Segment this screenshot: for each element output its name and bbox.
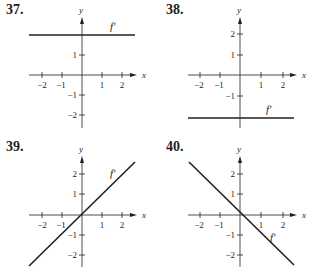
y-tick-label: −2: [225, 250, 235, 260]
f-prime-label: f′: [266, 103, 272, 115]
graph-40: 40. −2 −1 1 2 2 1 −1 −2 x y f′: [160, 137, 320, 274]
f-prime-line: [189, 162, 294, 265]
x-tick-label: −2: [194, 220, 204, 230]
plot-38: −2 −1 1 2 2 1 −1 x y f′: [160, 0, 321, 137]
y-axis-arrow-icon: [80, 17, 84, 24]
x-tick-label: 2: [281, 80, 286, 90]
x-axis-arrow-icon: [130, 73, 137, 77]
x-axis-label: x: [301, 70, 306, 80]
x-tick-label: 2: [281, 220, 286, 230]
x-axis-label: x: [141, 70, 146, 80]
y-tick-label: −1: [225, 230, 235, 240]
graph-39: 39. −2 −1 1 2 2 1 −1 −2 x y f′: [0, 137, 160, 274]
x-tick-label: −2: [37, 220, 47, 230]
x-tick-label: 2: [120, 220, 125, 230]
y-tick-label: 1: [73, 50, 78, 60]
x-tick-label: 2: [120, 80, 125, 90]
y-axis-arrow-icon: [80, 156, 84, 163]
x-axis-label: x: [141, 210, 146, 220]
f-prime-label: f′: [110, 20, 116, 32]
x-axis-arrow-icon: [290, 73, 297, 77]
x-tick-label: −1: [214, 220, 224, 230]
y-axis-label: y: [78, 144, 83, 154]
y-axis-arrow-icon: [238, 17, 242, 24]
x-tick-label: 1: [100, 80, 105, 90]
x-tick-label: −2: [37, 80, 47, 90]
y-tick-label: −2: [67, 110, 77, 120]
x-axis-label: x: [301, 210, 306, 220]
x-axis-arrow-icon: [290, 213, 297, 217]
x-tick-label: −1: [214, 80, 224, 90]
y-tick-label: 1: [231, 189, 236, 199]
y-tick-label: 2: [73, 169, 78, 179]
x-tick-label: 1: [259, 80, 264, 90]
x-tick-label: 1: [259, 220, 264, 230]
x-tick-label: −1: [56, 80, 66, 90]
graph-37: 37. −2 −1 1 2 1 −1 −2 x y f′: [0, 0, 160, 137]
plot-39: −2 −1 1 2 2 1 −1 −2 x y f′: [0, 137, 160, 274]
f-prime-label: f′: [110, 167, 116, 179]
f-prime-label: f′: [270, 231, 276, 243]
y-tick-label: 2: [231, 29, 236, 39]
x-tick-label: −1: [56, 220, 66, 230]
plot-37: −2 −1 1 2 1 −1 −2 x y f′: [0, 0, 160, 137]
y-tick-label: −1: [67, 230, 77, 240]
plot-40: −2 −1 1 2 2 1 −1 −2 x y f′: [160, 137, 321, 274]
y-tick-label: −1: [225, 91, 235, 101]
y-tick-label: 1: [73, 189, 78, 199]
x-axis-arrow-icon: [130, 213, 137, 217]
y-axis-label: y: [236, 144, 241, 154]
y-tick-label: 2: [231, 169, 236, 179]
y-tick-label: −2: [67, 250, 77, 260]
y-axis-label: y: [236, 5, 241, 15]
y-axis-label: y: [78, 5, 83, 15]
graph-38: 38. −2 −1 1 2 2 1 −1 x y f′: [160, 0, 320, 137]
x-tick-label: −2: [194, 80, 204, 90]
y-axis-arrow-icon: [238, 156, 242, 163]
y-tick-label: 1: [231, 50, 236, 60]
y-tick-label: −1: [67, 90, 77, 100]
x-tick-label: 1: [100, 220, 105, 230]
